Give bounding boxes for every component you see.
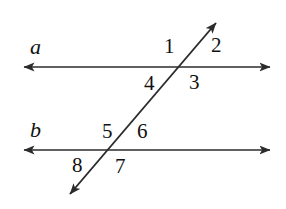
transversal-group [70,23,216,194]
angle-label-2: 2 [211,35,222,56]
angle-label-4: 4 [144,73,155,94]
geometry-diagram: a b 1 2 3 4 5 6 7 8 [0,0,286,209]
line-label-a: a [30,36,41,58]
angle-label-7: 7 [115,156,126,177]
transversal-line [70,23,216,194]
line-label-b: b [30,119,41,141]
angle-label-8: 8 [72,155,83,176]
angle-label-1: 1 [164,36,175,57]
diagram-canvas [0,0,286,209]
angle-label-3: 3 [189,72,200,93]
angle-label-5: 5 [102,121,113,142]
angle-label-6: 6 [137,121,148,142]
